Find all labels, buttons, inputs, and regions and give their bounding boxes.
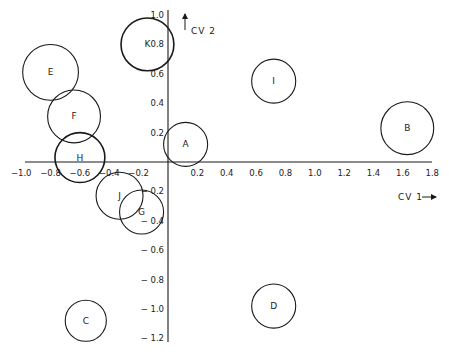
data-point-b: B (381, 102, 434, 155)
y-tick-label: − 1.2 (141, 333, 164, 343)
y-tick-label: − 0.4 (141, 216, 164, 226)
data-points: ABCDEFGHIJK (23, 18, 434, 341)
y-tick-label: 0.4 (150, 98, 164, 108)
y-tick-label: − 1.0 (141, 304, 164, 314)
point-label: H (77, 153, 84, 163)
x-tick-labels: −1.0−0.8−0.6−0.4−0.20.20.40.60.81.01.21.… (11, 168, 439, 178)
x-axis-title: CV 1 (398, 192, 436, 202)
point-label: B (404, 123, 410, 133)
point-label: C (83, 316, 89, 326)
x-tick-label: −0.2 (128, 168, 149, 178)
x-tick-label: 1.2 (337, 168, 351, 178)
y-tick-label: − 0.2 (141, 186, 164, 196)
data-point-e: E (23, 44, 79, 100)
x-axis-label: CV 1 (398, 192, 423, 202)
data-point-g: G (120, 190, 164, 234)
y-axis-label: CV 2 (191, 26, 216, 36)
data-point-i: I (252, 59, 296, 103)
data-point-c: C (65, 300, 106, 341)
x-tick-label: 1.8 (425, 168, 439, 178)
x-tick-label: 0.6 (249, 168, 263, 178)
x-tick-label: 0.4 (220, 168, 234, 178)
y-axis-title: CV 2 (185, 14, 216, 36)
x-tick-label: 0.2 (191, 168, 205, 178)
data-point-f: F (48, 90, 101, 143)
point-label: A (183, 139, 190, 149)
y-tick-label: 0.8 (150, 39, 164, 49)
point-label: E (48, 67, 54, 77)
x-tick-label: −0.6 (70, 168, 91, 178)
data-point-d: D (252, 284, 296, 328)
data-point-k: K (121, 18, 174, 71)
point-label: F (71, 111, 76, 121)
x-tick-label: −1.0 (11, 168, 32, 178)
x-tick-label: 1.4 (367, 168, 381, 178)
data-point-a: A (164, 122, 208, 166)
scatter-chart: −1.0−0.8−0.6−0.4−0.20.20.40.60.81.01.21.… (0, 0, 449, 355)
y-tick-label: − 0.6 (141, 245, 164, 255)
y-tick-label: 0.2 (150, 128, 164, 138)
point-label: D (270, 301, 277, 311)
y-tick-label: − 0.8 (141, 275, 164, 285)
x-tick-label: 1.0 (308, 168, 322, 178)
x-tick-label: 0.8 (279, 168, 293, 178)
x-tick-label: 1.6 (396, 168, 410, 178)
point-label: J (117, 191, 121, 201)
point-label: I (272, 76, 275, 86)
